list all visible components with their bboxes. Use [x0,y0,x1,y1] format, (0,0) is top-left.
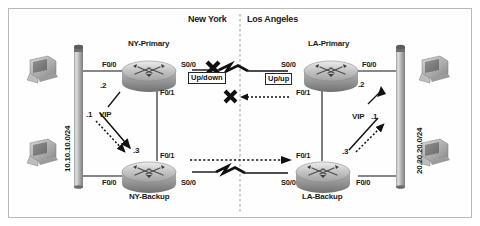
iface-la-backup-s00: S0/0 [281,179,296,187]
router-name-la-primary: LA-Primary [308,40,349,48]
iface-la-primary-f01: F0/1 [296,89,310,97]
host-octet-ny-backup: .3 [133,147,139,155]
iface-ny-backup-f00: F0/0 [102,179,116,187]
router-name-la-backup: LA-Backup [302,193,342,201]
network-segment-icon-right [396,45,405,189]
network-segment-icon-left [74,45,83,189]
iface-la-backup-f01: F0/1 [296,152,310,160]
status-badge-la-primary-wan: Up/up [265,73,292,85]
left-vip-arrows [96,92,130,152]
iface-ny-primary-s00: S0/0 [181,61,196,69]
router-icon-la-backup [296,162,350,193]
vip-label-left: VIP [99,111,111,119]
router-icon-ny-backup [122,162,176,193]
network-diagram-figure: New York Los Angeles 10.10.10.0/24 20.20… [0,0,480,226]
host-octet-ny-primary: .2 [100,82,106,90]
vip-octet-right: .1 [371,113,377,121]
iface-ny-primary-f01: F0/1 [160,89,174,97]
subnet-label-right: 20.20.20.0/24 [416,128,424,174]
iface-la-primary-s00: S0/0 [281,61,296,69]
iface-ny-backup-s00: S0/0 [181,179,196,187]
site-label-los-angeles: Los Angeles [247,15,298,24]
host-octet-la-backup: .3 [342,148,348,156]
workstation-icon-ny-top [27,56,58,83]
site-label-new-york: New York [188,15,227,24]
backup-wan-link [192,166,288,174]
vip-octet-left: .1 [86,111,92,119]
iface-ny-backup-f01: F0/1 [160,152,174,160]
router-icon-la-primary [304,61,358,92]
primary-tracking-link [240,94,290,101]
backup-tracking-link [190,156,292,164]
iface-la-primary-f00: F0/0 [362,61,376,69]
host-octet-la-primary: .2 [358,81,364,89]
iface-la-backup-f00: F0/0 [356,179,370,187]
diagram-canvas [0,0,480,226]
workstation-icon-la-top [419,56,450,83]
workstation-icon-ny-bottom [27,139,58,166]
router-name-ny-backup: NY-Backup [129,193,169,201]
iface-ny-primary-f00: F0/0 [102,61,116,69]
router-name-ny-primary: NY-Primary [128,40,169,48]
status-badge-ny-primary-wan: Up/down [188,72,226,84]
subnet-label-left: 10.10.10.0/24 [64,126,72,172]
primary-tracking-x-fail-icon [225,91,236,102]
vip-label-right: VIP [352,113,364,121]
